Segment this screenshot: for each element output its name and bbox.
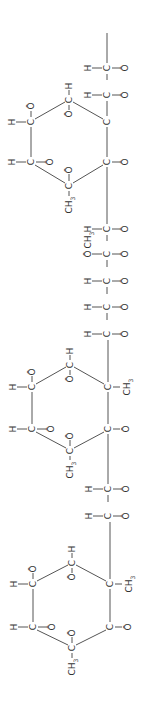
chain-mid-row4-left: H bbox=[83, 304, 93, 311]
structure-svg: H C Ō H C Ō H C Ō C C Ō Ō C H H C Ō Ō C … bbox=[0, 0, 141, 708]
ring3-right-lower-atom: C bbox=[105, 624, 115, 630]
ring3-right-upper-methyl: CH3 bbox=[124, 575, 136, 592]
chain-low-row2-right: Ō bbox=[121, 512, 131, 519]
ring3-bottom-ch: CH bbox=[67, 662, 77, 675]
ring2-bottom-subscript: 3 bbox=[70, 461, 77, 465]
ring2-left-lower-right: Ō bbox=[46, 425, 56, 432]
chain-mid-row5-right: Ō bbox=[120, 330, 130, 337]
ring2-right-lower-atom: C bbox=[103, 426, 113, 432]
ring3-left-upper-atom: C bbox=[28, 581, 38, 587]
chain-mid-row2-methyl: CH3 bbox=[83, 231, 95, 248]
ring2-right-upper-ch: CH bbox=[122, 382, 132, 395]
ring1-left-upper-left: H bbox=[7, 119, 17, 126]
ring1-left-lower-left: H bbox=[7, 159, 17, 166]
chain-top-row2-right: Ō bbox=[120, 91, 130, 98]
ring3-bottom-atom: C bbox=[67, 645, 77, 651]
ring2-bottom-above: Ō bbox=[65, 432, 75, 439]
ring1-left-lower-right: Ō bbox=[45, 158, 55, 165]
chain-mid-row4-right: Ō bbox=[120, 303, 130, 310]
ring2-top-atom: C bbox=[65, 362, 75, 368]
ring1-right-lower-right: Ō bbox=[120, 158, 130, 165]
ring2-top-above: H bbox=[65, 348, 75, 355]
chain-low-row1-left: H bbox=[84, 486, 94, 493]
ring1-top-below: Ō bbox=[64, 110, 74, 117]
ring1-left-lower-atom: C bbox=[26, 159, 36, 165]
chain-top-row1-center: C bbox=[102, 65, 112, 71]
ring3-left-lower-right: Ō bbox=[47, 623, 57, 630]
ring1-bottom-ch: CH bbox=[64, 200, 74, 213]
ring2-bottom-below: CH3 bbox=[65, 461, 77, 478]
chain-mid-row2-ch: CH bbox=[83, 235, 93, 248]
ring2-top-below: Ō bbox=[65, 375, 75, 382]
ring3-top-atom: C bbox=[67, 560, 77, 566]
ring3-right-lower-right: Ō bbox=[123, 623, 133, 630]
ring1-right-lower-atom: C bbox=[102, 159, 112, 165]
chain-top-row2-center: C bbox=[102, 92, 112, 98]
chain-mid-row1-right: Ō bbox=[120, 225, 130, 232]
ring3-right-upper-atom: C bbox=[105, 581, 115, 587]
ring1-bottom-subscript: 3 bbox=[69, 196, 76, 200]
ring2-right-upper-methyl: CH3 bbox=[122, 378, 134, 395]
ring3-bottom-subscript: 3 bbox=[72, 658, 79, 662]
chain-low-row2-center: C bbox=[103, 513, 113, 519]
ring1-top-above: H bbox=[64, 83, 74, 90]
chain-mid-row3-left: H bbox=[83, 278, 93, 285]
chain-mid-row4-center: C bbox=[102, 304, 112, 310]
ring3-left-upper-above: Ō bbox=[28, 565, 38, 572]
ring2-left-lower-atom: C bbox=[27, 426, 37, 432]
ring3-left-upper-left: H bbox=[9, 581, 19, 588]
chain-mid-row5-center: C bbox=[102, 331, 112, 337]
chain-mid-row2-subscript: 3 bbox=[88, 231, 95, 235]
chain-top-row1-right: Ō bbox=[120, 64, 130, 71]
chain-mid-row5-left: H bbox=[83, 331, 93, 338]
chain-mid-row2-center: C bbox=[102, 251, 112, 257]
ring3-top-above: H bbox=[67, 546, 77, 553]
ring3-left-lower-atom: C bbox=[28, 624, 38, 630]
ring2-left-upper-atom: C bbox=[27, 384, 37, 390]
chain-mid-row2-left: Ō bbox=[83, 250, 93, 257]
chain-top-row2-left: H bbox=[83, 92, 93, 99]
ring1-left-upper-atom: C bbox=[26, 119, 36, 125]
ring2-bottom-ch: CH bbox=[65, 465, 75, 478]
ring1-bottom-below: CH3 bbox=[64, 196, 76, 213]
chain-mid-row1-center: C bbox=[102, 226, 112, 232]
chain-mid-row3-center: C bbox=[102, 278, 112, 284]
ring3-right-upper-ch: CH bbox=[124, 579, 134, 592]
ring3-bottom-above: Ō bbox=[67, 629, 77, 636]
ring1-right-upper-atom: C bbox=[102, 119, 112, 125]
ring2-left-lower-left: H bbox=[8, 426, 18, 433]
ring2-bottom-atom: C bbox=[65, 448, 75, 454]
ring2-right-upper-subscript: 3 bbox=[127, 378, 134, 382]
ring1-bottom-above: Ō bbox=[64, 166, 74, 173]
ring1-bottom-atom: C bbox=[64, 183, 74, 189]
chain-low-row1-right: Ō bbox=[121, 485, 131, 492]
ring3-bottom-below: CH3 bbox=[67, 658, 79, 675]
chain-top-row1-left: H bbox=[83, 65, 93, 72]
chain-mid-row3-right: Ō bbox=[120, 277, 130, 284]
ring3-left-lower-left: H bbox=[9, 624, 19, 631]
ring3-top-below: Ō bbox=[67, 573, 77, 580]
ring3-right-upper-subscript: 3 bbox=[129, 575, 136, 579]
chain-low-row2-left: H bbox=[84, 513, 94, 520]
ring1-left-upper-above: Ō bbox=[26, 102, 36, 109]
chain-mid-row2-right: Ō bbox=[120, 250, 130, 257]
chain-low-row1-center: C bbox=[103, 486, 113, 492]
chemical-structure-diagram: H C Ō H C Ō H C Ō C C Ō Ō C H H C Ō Ō C … bbox=[0, 0, 141, 708]
chain-mid-row1-left: H bbox=[83, 226, 93, 233]
ring2-right-upper-atom: C bbox=[103, 384, 113, 390]
ring2-left-upper-left: H bbox=[8, 384, 18, 391]
ring1-top-atom: C bbox=[64, 97, 74, 103]
ring2-left-upper-above: Ō bbox=[27, 368, 37, 375]
ring2-right-lower-right: Ō bbox=[121, 425, 131, 432]
